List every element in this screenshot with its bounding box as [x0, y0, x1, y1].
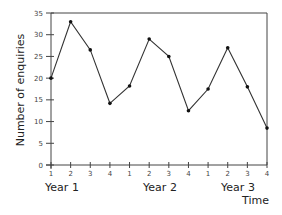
- x-tick-label: 3: [88, 170, 92, 178]
- data-point-marker: [128, 84, 132, 88]
- y-tick-label: 0: [39, 162, 43, 170]
- year-group-label: Year 2: [142, 181, 177, 194]
- data-point-marker: [69, 20, 73, 24]
- data-point-marker: [49, 76, 53, 80]
- data-point-marker: [88, 48, 92, 52]
- series-line: [51, 22, 267, 128]
- y-tick-label: 15: [34, 96, 43, 104]
- y-tick-label: 20: [34, 75, 43, 83]
- y-tick-label: 25: [34, 53, 43, 61]
- x-axis: 123412341234Year 1Year 2Year 3: [44, 162, 270, 194]
- y-axis-title: Number of enquiries: [14, 33, 27, 146]
- data-point-marker: [246, 85, 250, 89]
- y-tick-label: 35: [34, 10, 43, 18]
- x-tick-label: 3: [245, 170, 249, 178]
- data-point-marker: [147, 37, 151, 41]
- year-group-label: Year 3: [220, 181, 255, 194]
- y-tick-label: 5: [39, 140, 43, 148]
- x-tick-label: 1: [127, 170, 131, 178]
- x-axis-title: Time: [241, 194, 269, 207]
- y-axis: 05101520253035: [34, 10, 54, 170]
- year-group-label: Year 1: [44, 181, 79, 194]
- line-chart: 05101520253035 123412341234Year 1Year 2Y…: [0, 0, 282, 215]
- data-point-marker: [187, 109, 191, 113]
- x-tick-label: 2: [225, 170, 229, 178]
- x-tick-label: 1: [206, 170, 210, 178]
- data-point-marker: [206, 87, 210, 91]
- x-tick-label: 4: [265, 170, 270, 178]
- x-tick-label: 2: [68, 170, 72, 178]
- data-point-marker: [226, 46, 230, 50]
- y-tick-label: 30: [34, 31, 43, 39]
- x-tick-label: 4: [186, 170, 191, 178]
- data-point-marker: [167, 55, 171, 59]
- data-point-marker: [265, 126, 269, 130]
- x-tick-label: 3: [167, 170, 171, 178]
- plot-frame: [51, 13, 267, 165]
- x-tick-label: 4: [108, 170, 113, 178]
- x-tick-label: 1: [49, 170, 53, 178]
- y-tick-label: 10: [34, 118, 43, 126]
- data-point-marker: [108, 102, 112, 106]
- x-tick-label: 2: [147, 170, 151, 178]
- data-series: [49, 20, 269, 130]
